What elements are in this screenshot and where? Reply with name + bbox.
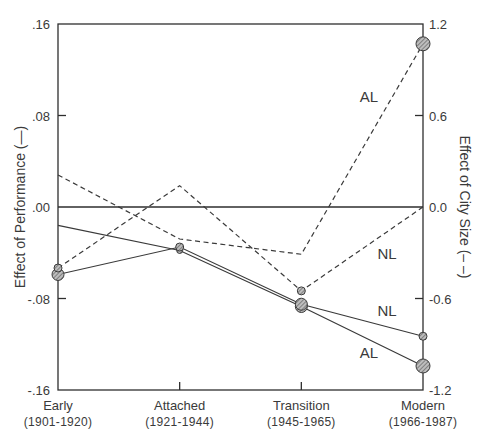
- series-label-nl: NL: [377, 245, 396, 262]
- left-tick-label: .00: [32, 200, 50, 215]
- right-tick-label: 1.2: [429, 17, 447, 32]
- data-point-marker: [295, 298, 307, 310]
- left-tick-label: -.08: [28, 292, 50, 307]
- category-label: Early: [43, 398, 73, 413]
- right-tick-label: 0.0: [429, 200, 447, 215]
- right-tick-label: -1.2: [429, 383, 451, 398]
- left-tick-label: .16: [32, 17, 50, 32]
- line-chart: .16.08.00-.08-.16 1.20.60.0-0.6-1.2 Earl…: [0, 0, 477, 438]
- category-period: (1921-1944): [145, 415, 214, 429]
- series-labels: ALNLALNL: [360, 88, 397, 361]
- data-point-marker: [176, 243, 184, 251]
- category-period: (1966-1987): [389, 415, 458, 429]
- right-tick-label: -0.6: [429, 292, 451, 307]
- category-label: Modern: [401, 398, 445, 413]
- series-line: [58, 44, 423, 254]
- x-axis: Early(1901-1920)Attached(1921-1944)Trans…: [24, 382, 458, 429]
- series-nl-performance: [52, 243, 427, 340]
- category-period: (1945-1965): [267, 415, 336, 429]
- left-axis-title: Effect of Performance (—): [12, 126, 28, 288]
- category-label: Attached: [154, 398, 205, 413]
- left-tick-label: -.16: [28, 383, 50, 398]
- data-point-marker: [416, 37, 430, 51]
- series-label-al: AL: [360, 88, 378, 105]
- right-axis-title: Effect of City Size (– –): [457, 136, 473, 279]
- right-tick-label: 0.6: [429, 109, 447, 124]
- series-label-nl: NL: [377, 302, 396, 319]
- series-label-al: AL: [360, 344, 378, 361]
- series-nl-city-size: [54, 186, 423, 295]
- data-point-marker: [416, 359, 430, 373]
- category-label: Transition: [273, 398, 330, 413]
- category-period: (1901-1920): [24, 415, 93, 429]
- data-point-marker: [54, 264, 62, 272]
- data-point-marker: [419, 332, 427, 340]
- left-tick-label: .08: [32, 109, 50, 124]
- series-al-city-size: [58, 37, 430, 254]
- data-point-marker: [297, 287, 305, 295]
- series-line: [58, 247, 423, 336]
